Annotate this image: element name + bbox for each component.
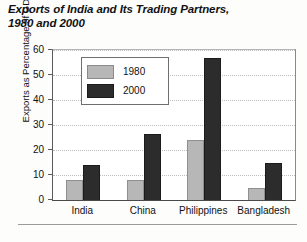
bar-2000-philippines bbox=[204, 58, 221, 201]
x-tick-label-china: China bbox=[130, 205, 156, 216]
legend-item-2000: 2000 bbox=[87, 81, 163, 100]
bar-2000-india bbox=[83, 165, 100, 200]
y-tick-mark bbox=[48, 49, 52, 50]
legend-item-1980: 1980 bbox=[87, 62, 163, 81]
y-tick-label: 60 bbox=[18, 44, 44, 55]
x-tick-label-india: India bbox=[71, 205, 93, 216]
bar-group bbox=[187, 50, 221, 200]
y-tick-mark bbox=[48, 124, 52, 125]
x-tick-label-philippines: Philippines bbox=[179, 205, 227, 216]
y-axis-title: Exports as Percentage of GDP bbox=[20, 0, 31, 134]
y-tick-label: 40 bbox=[18, 94, 44, 105]
bar-2000-china bbox=[144, 134, 161, 200]
y-tick-mark bbox=[48, 174, 52, 175]
x-tick-label-bangladesh: Bangladesh bbox=[237, 205, 290, 216]
chart-legend: 1980 2000 bbox=[81, 57, 169, 105]
bar-1980-bangladesh bbox=[248, 188, 265, 201]
y-tick-mark bbox=[48, 149, 52, 150]
y-tick-label: 50 bbox=[18, 69, 44, 80]
legend-label-1980: 1980 bbox=[123, 66, 145, 77]
legend-swatch-1980 bbox=[87, 65, 114, 79]
bar-1980-india bbox=[66, 180, 83, 200]
legend-label-2000: 2000 bbox=[123, 85, 145, 96]
y-tick-label: 10 bbox=[18, 169, 44, 180]
chart-figure: Exports of India and Its Trading Partner… bbox=[0, 0, 307, 242]
bar-group bbox=[248, 50, 282, 200]
bar-1980-china bbox=[127, 180, 144, 200]
bar-1980-philippines bbox=[187, 140, 204, 200]
y-tick-label: 30 bbox=[18, 119, 44, 130]
chart-title: Exports of India and Its Trading Partner… bbox=[8, 3, 298, 30]
y-tick-mark bbox=[48, 99, 52, 100]
footer-rule bbox=[18, 224, 297, 225]
y-tick-label: 20 bbox=[18, 144, 44, 155]
legend-swatch-2000 bbox=[87, 84, 114, 98]
y-tick-label: 0 bbox=[18, 194, 44, 205]
y-tick-mark bbox=[48, 74, 52, 75]
bar-2000-bangladesh bbox=[265, 163, 282, 201]
y-tick-mark bbox=[48, 199, 52, 200]
